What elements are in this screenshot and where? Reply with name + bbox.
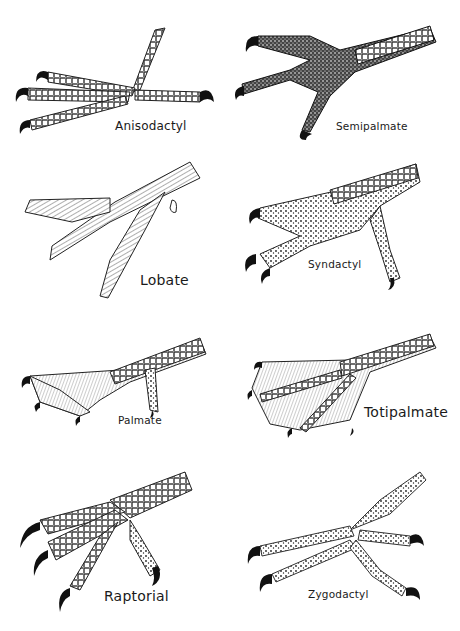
label-syndactyl: Syndactyl (308, 258, 361, 270)
panel-lobate: Lobate (0, 150, 230, 310)
raptorial-foot-illustration (0, 460, 230, 631)
label-zygodactyl: Zygodactyl (308, 588, 369, 600)
label-raptorial: Raptorial (104, 588, 169, 604)
totipalmate-foot-illustration (230, 310, 460, 460)
label-palmate: Palmate (118, 414, 162, 426)
zygodactyl-foot-illustration (230, 460, 460, 631)
panel-anisodactyl: Anisodactyl (0, 0, 230, 150)
label-anisodactyl: Anisodactyl (115, 119, 187, 133)
claw-icon (36, 71, 48, 82)
panel-totipalmate: Totipalmate (230, 310, 460, 460)
syndactyl-foot-illustration (230, 150, 460, 310)
panel-zygodactyl: Zygodactyl (230, 460, 460, 631)
label-totipalmate: Totipalmate (364, 404, 448, 420)
panel-syndactyl: Syndactyl (230, 150, 460, 310)
label-semipalmate: Semipalmate (336, 120, 408, 132)
panel-palmate: Palmate (0, 310, 230, 460)
label-lobate: Lobate (140, 272, 189, 288)
panel-semipalmate: Semipalmate (230, 0, 460, 150)
palmate-foot-illustration (0, 310, 230, 460)
lobate-foot-illustration (0, 150, 230, 310)
panel-raptorial: Raptorial (0, 460, 230, 631)
